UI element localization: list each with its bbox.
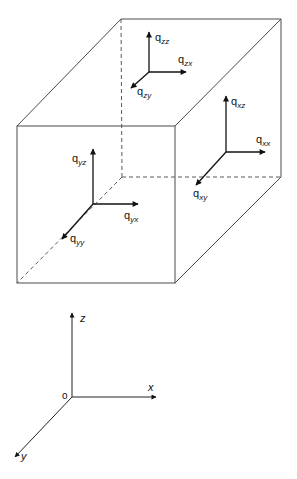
vector-qyy-arrow — [62, 204, 93, 239]
label-qyx: qyx — [124, 209, 139, 224]
vector-group-right-face: qxz qxx qxy — [193, 95, 271, 202]
label-qxx: qxx — [256, 133, 271, 148]
y-axis-label: y — [20, 450, 28, 462]
edge-top-left-depth — [17, 19, 121, 126]
label-qzx: qzx — [178, 53, 193, 68]
label-qyy: qyy — [70, 232, 85, 247]
x-axis-label: x — [147, 381, 154, 393]
y-axis — [15, 397, 72, 457]
hidden-edge-back-left-vertical — [121, 19, 122, 177]
vector-group-top-face: qzz qzx qzy — [131, 31, 193, 100]
label-qxz: qxz — [231, 95, 245, 110]
vector-qxy-arrow — [196, 152, 226, 185]
label-qzy: qzy — [137, 85, 152, 100]
edge-top-right-depth — [175, 19, 281, 126]
origin-label: o — [62, 390, 68, 401]
edge-bottom-right-depth — [175, 177, 281, 283]
label-qxy: qxy — [193, 187, 208, 202]
heat-flux-cube-diagram: qzz qzx qzy qxz qxx qxy qyz qyx qyy z x … — [0, 0, 297, 479]
label-qzz: qzz — [155, 31, 169, 46]
coordinate-axes: z x y o — [15, 312, 156, 462]
label-qyz: qyz — [72, 152, 86, 167]
z-axis-label: z — [79, 312, 86, 324]
